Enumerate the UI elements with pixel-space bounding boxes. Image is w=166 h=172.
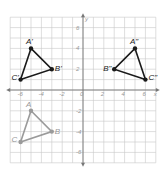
y-arrow-icon [81,163,85,167]
vertex-point [143,77,147,81]
vertex-point [18,77,22,81]
coordinate-plane: -6-4-20246642-2-4-6yx ABCA'B'C'A"B"C" [0,0,166,172]
triangle: ABC [12,100,61,144]
triangle: A"B"C" [103,37,158,81]
vertex-point [112,67,116,71]
vertex-point [50,67,54,71]
vertex-point [133,46,137,50]
vertex-point [18,140,22,144]
vertex-point [29,109,33,113]
x-arrow-icon [6,88,10,92]
y-tick-label: -2 [76,108,82,114]
y-tick-label: 2 [75,66,80,72]
y-tick-label: -4 [76,129,82,135]
vertex-label: B [55,127,61,136]
triangles: ABCA'B'C'A"B"C" [12,37,159,144]
vertex-label: C" [148,73,158,82]
axes [6,13,160,167]
x-tick-label: -4 [38,91,44,97]
vertex-label: A' [25,37,33,46]
vertex-label: B' [55,64,62,73]
triangle: A'B'C' [12,37,63,81]
x-tick-label: 2 [100,91,105,97]
x-tick-label: 4 [122,91,126,97]
x-axis-label: x [153,91,158,97]
triangle-edges [21,48,52,79]
vertex-point [29,46,33,50]
vertex-label: C [12,135,18,144]
vertex-point [50,129,54,133]
y-tick-label: -6 [76,149,82,155]
vertex-label: A [25,100,31,109]
x-tick-label: -2 [59,91,65,97]
triangle-edges [114,48,145,79]
vertex-label: C' [12,73,20,82]
vertex-label: B" [103,64,112,73]
x-tick-label: 6 [142,91,146,97]
x-tick-label: -6 [18,91,24,97]
triangle-edges [21,111,52,142]
vertex-label: A" [129,37,139,46]
